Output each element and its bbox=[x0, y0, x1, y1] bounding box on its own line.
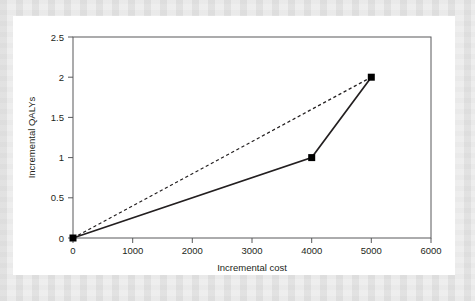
x-tick-label: 3000 bbox=[241, 245, 262, 256]
plot-frame bbox=[73, 37, 431, 238]
x-tick-label: 4000 bbox=[301, 245, 322, 256]
x-tick-label: 5000 bbox=[361, 245, 382, 256]
data-point-marker-origin bbox=[70, 235, 77, 242]
y-axis-ticks bbox=[68, 37, 73, 238]
page-background: 0 1000 2000 3000 4000 5000 6000 0 0.5 1 … bbox=[0, 0, 475, 301]
y-tick-label: 2.5 bbox=[51, 32, 64, 43]
x-tick-label: 0 bbox=[70, 245, 75, 256]
y-tick-labels: 0 0.5 1 1.5 2 2.5 bbox=[51, 32, 64, 244]
y-tick-label: 2 bbox=[59, 72, 64, 83]
y-tick-label: 0.5 bbox=[51, 192, 64, 203]
y-tick-label: 0 bbox=[59, 233, 64, 244]
y-tick-label: 1.5 bbox=[51, 112, 64, 123]
x-tick-label: 1000 bbox=[122, 245, 143, 256]
x-tick-labels: 0 1000 2000 3000 4000 5000 6000 bbox=[70, 245, 441, 256]
y-axis-title: Incremental QALYs bbox=[26, 96, 37, 178]
data-point-marker-mid bbox=[308, 154, 315, 161]
figure-card: 0 1000 2000 3000 4000 5000 6000 0 0.5 1 … bbox=[13, 16, 455, 275]
x-axis-ticks bbox=[73, 238, 431, 243]
data-point-marker-top bbox=[368, 74, 375, 81]
incremental-cost-effectiveness-plane-chart: 0 1000 2000 3000 4000 5000 6000 0 0.5 1 … bbox=[13, 16, 455, 275]
x-tick-label: 6000 bbox=[420, 245, 441, 256]
x-axis-title: Incremental cost bbox=[217, 262, 287, 273]
x-tick-label: 2000 bbox=[182, 245, 203, 256]
y-tick-label: 1 bbox=[59, 152, 64, 163]
